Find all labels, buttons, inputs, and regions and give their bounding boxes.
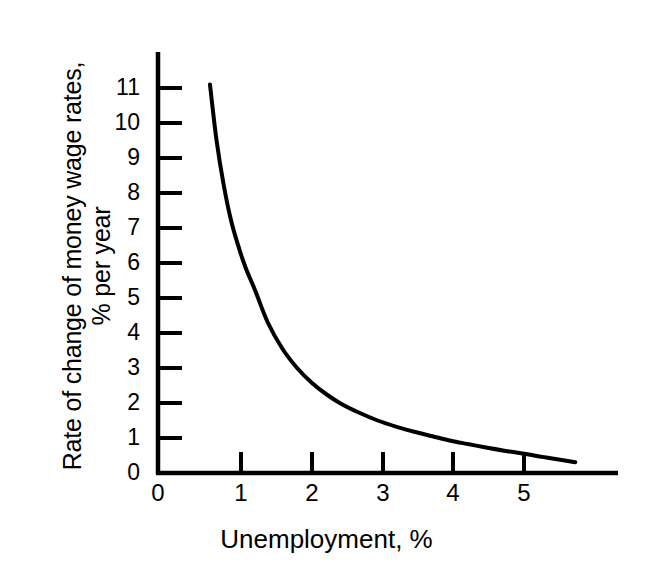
y-tick-label-0: 0 [100,459,140,486]
x-tick-label-3: 3 [366,479,400,507]
y-tick-label-5: 5 [100,284,140,311]
x-tick-label-2: 2 [295,479,329,507]
y-axis-ticks [158,88,182,438]
y-tick-label-6: 6 [100,249,140,276]
x-tick-label-0: 0 [141,479,175,507]
y-tick-label-2: 2 [100,389,140,416]
y-tick-label-8: 8 [100,179,140,206]
y-tick-label-9: 9 [100,144,140,171]
x-axis-title: Unemployment, % [0,524,653,555]
phillips-curve-figure: 11 10 9 8 7 6 5 4 3 2 1 0 0 1 2 3 4 5 Ra… [0,0,653,581]
x-tick-label-5: 5 [507,479,541,507]
y-tick-label-1: 1 [100,424,140,451]
x-axis-ticks [241,452,524,473]
y-tick-label-10: 10 [100,109,140,136]
y-tick-label-7: 7 [100,214,140,241]
x-tick-label-1: 1 [224,479,258,507]
y-tick-label-11: 11 [100,74,140,101]
y-tick-label-3: 3 [100,354,140,381]
y-tick-label-4: 4 [100,319,140,346]
phillips-curve-line [210,85,575,463]
x-tick-label-4: 4 [436,479,470,507]
